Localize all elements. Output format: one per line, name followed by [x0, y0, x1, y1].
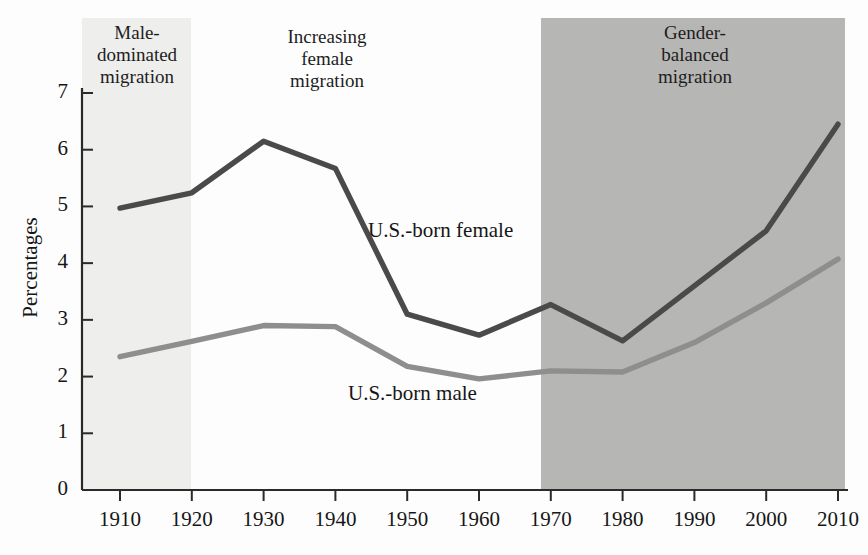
- x-tick-label: 1960: [439, 507, 519, 532]
- y-tick-marks: [82, 93, 93, 490]
- chart-container: Male- dominated migration Increasing fem…: [0, 0, 868, 555]
- y-tick-label: 2: [38, 363, 68, 388]
- x-tick-label: 1950: [367, 507, 447, 532]
- x-tick-label: 1910: [80, 507, 160, 532]
- y-tick-label: 1: [38, 419, 68, 444]
- line-series-male: [120, 259, 838, 379]
- x-tick-label: 1990: [654, 507, 734, 532]
- x-tick-label: 1920: [152, 507, 232, 532]
- x-tick-label: 1940: [295, 507, 375, 532]
- y-tick-label: 4: [38, 249, 68, 274]
- x-tick-label: 1930: [224, 507, 304, 532]
- plot-area: [0, 0, 868, 555]
- y-tick-label: 5: [38, 192, 68, 217]
- series-group: [120, 124, 838, 379]
- x-tick-label: 2010: [798, 507, 868, 532]
- y-tick-label: 7: [38, 79, 68, 104]
- y-tick-label: 0: [38, 476, 68, 501]
- x-tick-label: 2000: [726, 507, 806, 532]
- y-tick-label: 3: [38, 306, 68, 331]
- y-tick-label: 6: [38, 136, 68, 161]
- x-tick-label: 1970: [511, 507, 591, 532]
- series-label-female: U.S.-born female: [368, 218, 513, 243]
- series-label-male: U.S.-born male: [348, 381, 477, 406]
- x-tick-marks: [120, 490, 838, 501]
- axis-group: [82, 88, 848, 501]
- x-tick-label: 1980: [583, 507, 663, 532]
